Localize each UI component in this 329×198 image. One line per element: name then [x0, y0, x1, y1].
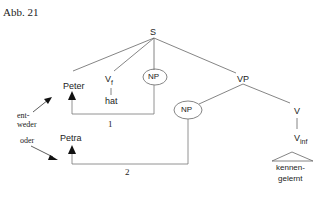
node-np-object: NP: [148, 73, 159, 81]
node-s: S: [150, 28, 156, 37]
node-np-inner: NP: [181, 106, 192, 114]
node-v: V: [294, 107, 300, 116]
annotation-ent: ent-: [17, 112, 29, 120]
path-label-1: 1: [108, 120, 113, 129]
node-petra: Petra: [60, 134, 82, 143]
node-kennen: kennen-: [276, 164, 305, 172]
node-vp: VP: [237, 75, 249, 84]
node-hat: hat: [105, 97, 118, 106]
node-vf: Vf: [105, 75, 113, 86]
path-label-2: 2: [125, 168, 130, 177]
node-peter: Peter: [63, 82, 85, 91]
vf-subscript: f: [111, 79, 113, 86]
annotation-weder: weder: [17, 121, 37, 129]
vinf-subscript: inf: [300, 138, 307, 145]
node-vinf: Vinf: [294, 134, 307, 145]
annotation-oder: oder: [20, 137, 34, 145]
node-gelernt: gelernt: [278, 175, 302, 183]
triangle-abbreviation: [272, 152, 313, 161]
figure-caption: Abb. 21: [3, 7, 38, 18]
